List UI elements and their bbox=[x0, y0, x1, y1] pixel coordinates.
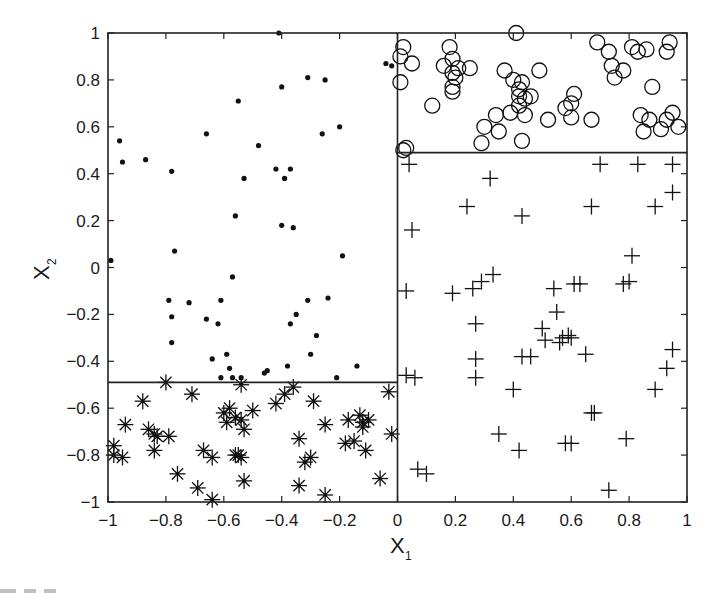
circle-marker bbox=[662, 35, 677, 50]
circle-marker bbox=[590, 35, 605, 50]
y-tick-label: −0.4 bbox=[66, 352, 100, 371]
y-tick-label: −0.2 bbox=[66, 305, 100, 324]
y-tick-label: −0.8 bbox=[66, 446, 100, 465]
dot-marker bbox=[108, 258, 113, 263]
plus-marker bbox=[618, 431, 634, 447]
x-tick-label: 1 bbox=[682, 511, 691, 530]
dot-marker bbox=[169, 314, 174, 319]
x-axis-label-subscript: 1 bbox=[405, 549, 412, 563]
plus-marker bbox=[563, 330, 579, 346]
circle-marker bbox=[404, 56, 419, 71]
star-marker bbox=[358, 442, 374, 458]
plus-marker bbox=[465, 281, 481, 297]
star-marker bbox=[291, 431, 307, 447]
plus-marker bbox=[592, 156, 608, 172]
plus-marker bbox=[404, 222, 420, 238]
star-marker bbox=[190, 480, 206, 496]
star-marker bbox=[196, 442, 212, 458]
x-axis-label: X 1 bbox=[390, 533, 412, 563]
dot-marker bbox=[354, 363, 359, 368]
star-marker bbox=[114, 449, 130, 465]
circle-marker bbox=[393, 75, 408, 90]
star-marker bbox=[245, 403, 261, 419]
star-marker bbox=[204, 449, 220, 465]
dot-marker bbox=[285, 363, 290, 368]
plus-marker bbox=[398, 283, 414, 299]
dot-marker bbox=[305, 298, 310, 303]
dot-marker bbox=[204, 316, 209, 321]
circle-marker bbox=[448, 70, 463, 85]
circle-marker bbox=[462, 61, 477, 76]
plus-marker bbox=[549, 304, 565, 320]
star-marker bbox=[340, 412, 356, 428]
dot-marker bbox=[308, 352, 313, 357]
circle-marker bbox=[491, 124, 506, 139]
star-marker bbox=[161, 428, 177, 444]
dot-marker bbox=[224, 352, 229, 357]
plus-marker bbox=[552, 335, 568, 351]
star-marker bbox=[233, 449, 249, 465]
circle-marker bbox=[514, 133, 529, 148]
plus-marker bbox=[473, 274, 489, 290]
data-markers bbox=[106, 26, 686, 508]
plus-marker bbox=[665, 184, 681, 200]
star-marker bbox=[346, 433, 362, 449]
x-tick-label: 0.2 bbox=[444, 511, 468, 530]
dot-marker bbox=[320, 131, 325, 136]
partition-lines bbox=[108, 33, 687, 502]
star-marker bbox=[268, 396, 284, 412]
plus-marker bbox=[401, 156, 417, 172]
dot-marker bbox=[288, 166, 293, 171]
plus-marker bbox=[647, 381, 663, 397]
x-tick-label: −1 bbox=[98, 511, 117, 530]
plus-marker bbox=[647, 199, 663, 215]
cropped-caption-fragment bbox=[0, 589, 80, 593]
series-region-upper-right bbox=[393, 26, 686, 158]
series-region-upper-left bbox=[108, 30, 394, 380]
dot-marker bbox=[230, 274, 235, 279]
plus-marker bbox=[491, 426, 507, 442]
plus-marker bbox=[485, 267, 501, 283]
plus-marker bbox=[418, 466, 434, 482]
star-marker bbox=[219, 414, 235, 430]
star-marker bbox=[236, 421, 252, 437]
star-marker bbox=[236, 473, 252, 489]
dot-marker bbox=[120, 159, 125, 164]
plus-marker bbox=[468, 316, 484, 332]
x-axis-label-main: X bbox=[390, 533, 405, 558]
dot-marker bbox=[169, 340, 174, 345]
dot-marker bbox=[117, 138, 122, 143]
star-marker bbox=[233, 377, 249, 393]
dot-marker bbox=[323, 77, 328, 82]
circle-marker bbox=[645, 79, 660, 94]
star-marker bbox=[381, 384, 397, 400]
dot-marker bbox=[389, 63, 394, 68]
dot-marker bbox=[340, 253, 345, 258]
dot-marker bbox=[291, 225, 296, 230]
x-axis-ticks: −1−0.8−0.6−0.4−0.200.20.40.60.81 bbox=[98, 33, 691, 530]
star-marker bbox=[146, 442, 162, 458]
dot-marker bbox=[325, 295, 330, 300]
y-axis-label-main: X bbox=[29, 265, 54, 280]
dot-marker bbox=[186, 300, 191, 305]
star-marker bbox=[352, 407, 368, 423]
star-marker bbox=[285, 379, 301, 395]
star-marker bbox=[303, 449, 319, 465]
plus-marker bbox=[537, 332, 553, 348]
x-tick-label: −0.8 bbox=[149, 511, 183, 530]
dot-marker bbox=[334, 375, 339, 380]
plus-marker bbox=[407, 370, 423, 386]
plus-marker bbox=[534, 320, 550, 336]
dot-marker bbox=[273, 166, 278, 171]
star-marker bbox=[204, 492, 220, 508]
circle-marker bbox=[584, 112, 599, 127]
circle-marker bbox=[567, 86, 582, 101]
plus-marker bbox=[505, 381, 521, 397]
plus-marker bbox=[583, 199, 599, 215]
dot-marker bbox=[256, 143, 261, 148]
dot-marker bbox=[230, 375, 235, 380]
dot-marker bbox=[166, 298, 171, 303]
star-marker bbox=[117, 417, 133, 433]
series-region-lower-right bbox=[398, 156, 680, 498]
x-tick-label: 0 bbox=[393, 511, 402, 530]
